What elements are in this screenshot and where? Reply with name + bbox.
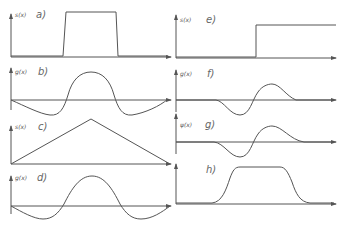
- response-curve-d: [11, 176, 170, 219]
- panel-label-h: h): [206, 164, 216, 175]
- panel-h: [176, 164, 336, 204]
- panel-a: [11, 12, 171, 57]
- triangle-curve: [11, 119, 170, 164]
- smoothed-pulse-curve: [176, 167, 334, 203]
- response-curve-b: [11, 72, 168, 115]
- panel-label-e: e): [206, 14, 216, 25]
- panel-label-c: c): [38, 121, 47, 132]
- panel-d: [11, 176, 171, 219]
- panel-label-f: f): [207, 68, 214, 79]
- panel-c: [11, 119, 171, 164]
- panel-label-a: a): [36, 9, 46, 20]
- rect-pulse-curve: [11, 12, 168, 56]
- panel-label-g: g): [205, 119, 215, 130]
- ylabel-c: s(x): [15, 123, 26, 130]
- ylabel-e: s(x): [180, 16, 191, 23]
- panel-e: [176, 15, 336, 58]
- signal-diagram: s(x) a) g(x) b) s(x) c) g(x) d) s(x) e) …: [0, 0, 346, 225]
- panel-f: [176, 70, 336, 115]
- panel-b: [11, 68, 171, 115]
- ylabel-f: g(x): [180, 70, 192, 78]
- panel-g: [176, 114, 336, 157]
- ylabel-a: s(x): [15, 11, 26, 18]
- ylabel-g: ψ(x): [180, 121, 192, 129]
- panel-label-d: d): [37, 172, 47, 183]
- step-curve: [176, 25, 336, 57]
- panel-label-b: b): [38, 66, 48, 77]
- ylabel-b: g(x): [15, 68, 27, 76]
- ylabel-d: g(x): [15, 174, 27, 182]
